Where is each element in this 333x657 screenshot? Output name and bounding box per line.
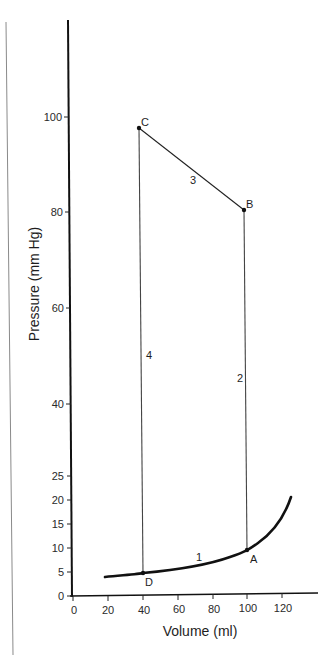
segment-4-line	[139, 128, 143, 573]
x-tick-label: 120	[274, 602, 292, 614]
point-c-label: C	[141, 116, 149, 128]
y-tick-label: 0	[58, 590, 64, 602]
y-axis-title: Pressure (mm Hg)	[26, 227, 42, 341]
filling-curve	[105, 497, 291, 577]
page-margin-line	[6, 22, 13, 655]
y-tick-label: 10	[52, 542, 64, 554]
x-axis	[70, 593, 318, 596]
y-tick-label: 15	[52, 518, 64, 530]
x-tick-label: 40	[138, 604, 150, 616]
point-b-label: B	[246, 198, 253, 210]
point-a-marker	[245, 548, 249, 552]
segment-1-label: 1	[196, 551, 202, 563]
x-tick-label: 0	[71, 604, 77, 616]
y-tick-label: 100	[44, 111, 62, 123]
segment-4-label: 4	[146, 349, 152, 361]
y-tick-labels: 100 80 60 40 25 20 15 10 5 0	[44, 111, 64, 602]
point-a-label: A	[250, 553, 258, 565]
point-d-label: D	[145, 576, 153, 588]
y-tick-label: 5	[58, 566, 64, 578]
segment-2-line	[244, 210, 247, 550]
x-tick-label: 100	[239, 602, 257, 614]
x-tick-label: 80	[208, 603, 220, 615]
segment-2-label: 2	[237, 372, 243, 384]
y-tick-label: 20	[52, 494, 64, 506]
pressure-volume-diagram: 100 80 60 40 25 20 15 10 5 0 0 20 40 60 …	[0, 0, 333, 657]
y-tick-label: 40	[52, 398, 64, 410]
x-axis-title: Volume (ml)	[163, 623, 238, 639]
x-tick-label: 60	[173, 603, 185, 615]
segment-3-line	[139, 128, 244, 210]
y-tick-label: 25	[52, 470, 64, 482]
y-tick-label: 60	[52, 302, 64, 314]
y-tick-label: 80	[51, 206, 63, 218]
x-tick-labels: 0 20 40 60 80 100 120	[71, 602, 292, 616]
segment-3-label: 3	[190, 174, 196, 186]
point-d-marker	[141, 571, 145, 575]
x-tick-label: 20	[102, 604, 114, 616]
